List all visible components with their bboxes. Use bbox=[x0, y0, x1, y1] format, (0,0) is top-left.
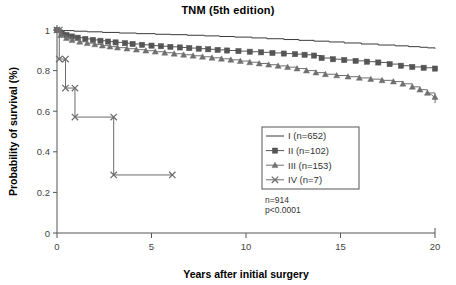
series-marker-square bbox=[342, 57, 347, 62]
series-marker-square bbox=[410, 64, 415, 69]
x-axis-tick-label: 20 bbox=[430, 241, 441, 252]
legend-label: I (n=652) bbox=[288, 130, 326, 141]
series-marker-square bbox=[215, 47, 220, 52]
legend-label: IV (n=7) bbox=[288, 174, 322, 185]
series-marker-square bbox=[302, 52, 307, 57]
y-axis-tick-label: 0.6 bbox=[37, 106, 50, 117]
series-marker-square bbox=[270, 50, 275, 55]
annotation-text: p<0.0001 bbox=[265, 205, 301, 215]
series-marker-square bbox=[158, 44, 163, 49]
series-marker-square bbox=[206, 47, 211, 52]
series-marker-square bbox=[421, 65, 426, 70]
series-marker-square bbox=[311, 53, 316, 58]
series-I bbox=[57, 30, 435, 49]
series-marker-square bbox=[293, 52, 298, 57]
y-axis-tick-label: 0 bbox=[45, 228, 50, 239]
series-marker-square bbox=[113, 40, 118, 45]
series-marker-square bbox=[281, 51, 286, 56]
x-axis-tick-label: 15 bbox=[335, 241, 346, 252]
series-marker-square bbox=[122, 41, 127, 46]
y-axis-tick-label: 0.4 bbox=[37, 146, 50, 157]
y-axis-title: Probability of survival (%) bbox=[7, 67, 19, 196]
legend-label: II (n=102) bbox=[288, 145, 329, 156]
series-marker-square bbox=[319, 55, 324, 60]
series-marker-square bbox=[168, 44, 173, 49]
series-marker-square bbox=[196, 46, 201, 51]
series-marker-square bbox=[225, 48, 230, 53]
series-marker-square bbox=[376, 60, 381, 65]
series-marker-square bbox=[236, 49, 241, 54]
series-marker-square bbox=[387, 62, 392, 67]
x-axis-title: Years after initial surgery bbox=[183, 268, 309, 280]
series-marker-square bbox=[187, 45, 192, 50]
y-axis-tick-label: 0.8 bbox=[37, 65, 50, 76]
series-marker-square bbox=[432, 66, 437, 71]
series-marker-square bbox=[259, 50, 264, 55]
series-marker-square bbox=[177, 45, 182, 50]
series-marker-square bbox=[149, 43, 154, 48]
series-marker-square bbox=[130, 41, 135, 46]
annotation-text: n=914 bbox=[265, 195, 289, 205]
series-line-I bbox=[57, 30, 435, 49]
legend-label: III (n=153) bbox=[288, 160, 332, 171]
x-axis-tick-label: 10 bbox=[241, 241, 252, 252]
series-marker-square bbox=[364, 59, 369, 64]
x-axis-tick-label: 0 bbox=[54, 241, 59, 252]
survival-plot: 00.20.40.60.8105101520Years after initia… bbox=[0, 0, 456, 285]
series-marker-square bbox=[398, 63, 403, 68]
y-axis-tick-label: 1 bbox=[45, 25, 50, 36]
y-axis-tick-label: 0.2 bbox=[37, 187, 50, 198]
series-marker-square bbox=[272, 148, 277, 153]
series-marker-square bbox=[353, 58, 358, 63]
chart-root: TNM (5th edition) 00.20.40.60.8105101520… bbox=[0, 0, 456, 285]
x-axis-tick-label: 5 bbox=[149, 241, 154, 252]
series-marker-square bbox=[330, 57, 335, 62]
series-marker-square bbox=[247, 49, 252, 54]
series-marker-square bbox=[139, 42, 144, 47]
